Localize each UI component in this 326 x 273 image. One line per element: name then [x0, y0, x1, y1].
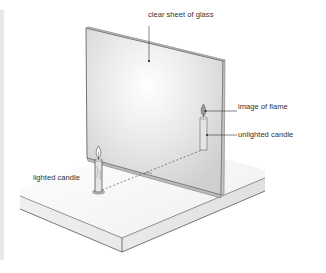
label-unlighted-candle: unlighted candle	[238, 131, 293, 139]
unlighted-candle	[200, 117, 207, 150]
label-glass: clear sheet of glass	[148, 11, 213, 19]
label-image-of-flame: image of flame	[238, 103, 288, 111]
label-lighted-candle: lighted candle	[33, 174, 80, 182]
